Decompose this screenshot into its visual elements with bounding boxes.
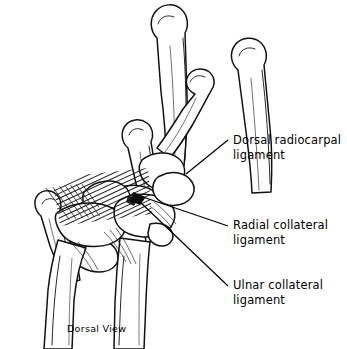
figure-caption: Dorsal View xyxy=(67,323,126,334)
label-ulnar-collateral-ligament: Ulnar collateral ligament xyxy=(233,278,323,307)
label-radial-collateral-ligament: Radial collateral ligament xyxy=(233,218,328,247)
label-dorsal-radiocarpal-ligament: Dorsal radiocarpal ligament xyxy=(233,133,341,162)
carpal-triquetrum xyxy=(153,173,194,206)
